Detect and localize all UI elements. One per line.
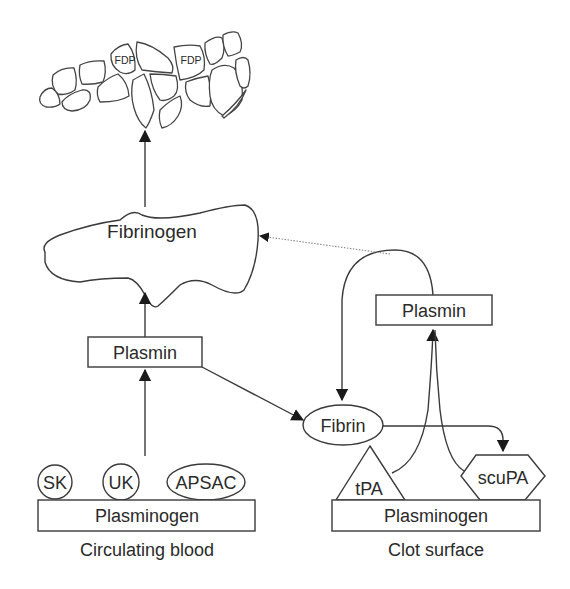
fibrin-degradation-products-clot: FDP FDP (40, 32, 250, 128)
fibrin-node: Fibrin (303, 405, 383, 445)
plasmin-circulating-node: Plasmin (88, 337, 202, 367)
apsac-node: APSAC (167, 464, 245, 500)
fibrinogen-label: Fibrinogen (107, 221, 197, 242)
fdp-label-left: FDP (115, 54, 136, 66)
plasminogen-clot-node: Plasminogen (332, 500, 540, 531)
fibrin-label: Fibrin (320, 416, 365, 436)
plasminogen-circulating-label: Plasminogen (95, 506, 199, 526)
fibrinolysis-diagram: FDP FDP Fibrinogen Plasmin SK UK APSAC P… (0, 0, 570, 589)
scupa-node: scuPA (461, 455, 545, 500)
curve-scupa-to-plasmin (435, 330, 464, 471)
plasminogen-clot-label: Plasminogen (384, 506, 488, 526)
arrow-tpa-to-plasmin (392, 330, 433, 473)
circulating-blood-caption: Circulating blood (80, 540, 214, 560)
tpa-label: tPA (355, 479, 383, 499)
clot-surface-caption: Clot surface (388, 540, 484, 560)
plasminogen-circulating-node: Plasminogen (38, 500, 255, 531)
plasmin-clot-label: Plasmin (402, 301, 466, 321)
uk-node: UK (103, 464, 139, 500)
sk-node: SK (38, 465, 72, 499)
apsac-label: APSAC (175, 473, 236, 493)
dotted-arrow-plasmin-to-fibrinogen (260, 236, 390, 254)
plasmin-circulating-label: Plasmin (113, 343, 177, 363)
tpa-node: tPA (336, 446, 405, 500)
plasmin-clot-node: Plasmin (376, 295, 492, 325)
uk-label: UK (108, 473, 133, 493)
fdp-label-right: FDP (181, 54, 202, 66)
scupa-label: scuPA (478, 468, 529, 488)
sk-label: SK (43, 473, 67, 493)
arrow-plasmin-to-fibrin (202, 367, 303, 420)
fibrinogen-node: Fibrinogen (44, 205, 258, 307)
